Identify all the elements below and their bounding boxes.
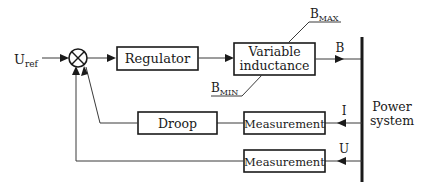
power-system-label-line2: system: [370, 113, 414, 128]
current-label: I: [342, 104, 347, 118]
inductance-input-arrow-icon: [225, 54, 234, 62]
block-diagram: Uref Regulator Variable inductance BMAX …: [0, 0, 425, 191]
voltage-label: U: [339, 142, 349, 156]
measurement-current-block: Measurement: [244, 112, 325, 134]
current-arrow-icon: [337, 119, 346, 127]
droop-block: Droop: [138, 112, 217, 134]
regulator-block: Regulator: [117, 47, 198, 70]
regulator-label: Regulator: [125, 51, 191, 66]
variable-inductance-label-line1: Variable: [247, 44, 300, 59]
bmax-limit-line: [288, 22, 341, 43]
droop-feedback-wire: [86, 67, 138, 123]
bmax-label: BMAX: [310, 7, 339, 23]
variable-inductance-label-line2: inductance: [239, 58, 309, 73]
output-b-arrow-icon: [335, 55, 344, 63]
bmin-label: BMIN: [211, 81, 238, 97]
variable-inductance-block: Variable inductance: [234, 43, 315, 75]
uref-arrow-icon: [60, 54, 69, 62]
uref-label: Uref: [14, 52, 39, 69]
power-system-label-line1: Power: [372, 99, 412, 114]
regulator-input-arrow-icon: [107, 54, 116, 62]
output-b-label: B: [336, 41, 345, 55]
measurement-current-label: Measurement: [244, 117, 325, 131]
measurement-voltage-label: Measurement: [244, 155, 325, 169]
measurement-voltage-block: Measurement: [244, 150, 325, 172]
voltage-arrow-icon: [337, 157, 346, 165]
droop-label: Droop: [158, 116, 197, 131]
summing-junction-icon: [69, 49, 87, 67]
